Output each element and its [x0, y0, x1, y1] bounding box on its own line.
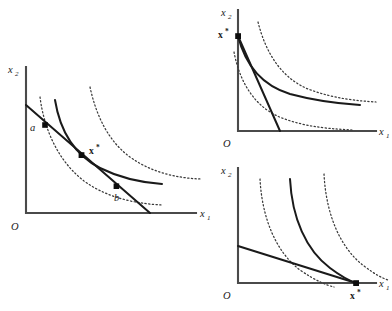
axes-corner-x: [238, 168, 376, 283]
indifference-curve-lower-dotted: [234, 52, 352, 130]
y-axis-label-text: x: [7, 64, 13, 75]
indifference-curve-optimum-solid: [238, 36, 360, 105]
x-axis-label-sub: 1: [386, 284, 390, 292]
point-label-x-star-text: x: [89, 146, 94, 156]
point-label-x-star-asterisk: *: [225, 27, 229, 36]
origin-label-interior: O: [11, 221, 19, 232]
point-marker-x-star: [79, 152, 85, 158]
y-axis-label-corner-y: x 2: [220, 7, 232, 21]
y-axis-label-sub: 2: [228, 171, 232, 179]
point-marker-x-star: [235, 33, 241, 39]
figure-root: a x * b x 2 x 1 O x *: [0, 0, 392, 311]
y-axis-label-corner-x: x 2: [220, 165, 232, 179]
x-axis-label-text: x: [378, 278, 384, 289]
y-axis-label-text: x: [220, 165, 226, 176]
chart-corner-solution-x1: x * x 2 x 1 O: [212, 152, 392, 311]
indifference-curve-optimum-solid: [290, 179, 356, 283]
point-label-x-star: x *: [89, 143, 100, 156]
x-axis-label-text: x: [199, 208, 205, 219]
x-axis-label-text: x: [378, 126, 384, 137]
x-axis-label-sub: 1: [386, 132, 390, 140]
point-label-x-star: x *: [350, 288, 361, 301]
indifference-curve-right-dotted: [324, 174, 388, 280]
chart-corner-solution-x2: x * x 2 x 1 O: [212, 0, 392, 152]
origin-label-corner-x: O: [223, 290, 231, 301]
y-axis-label-sub: 2: [15, 70, 19, 78]
x-axis-label-interior: x 1: [199, 208, 211, 222]
indifference-curve-left-dotted: [260, 179, 334, 287]
point-label-x-star-text: x: [350, 291, 355, 301]
point-label-x-star: x *: [218, 27, 229, 40]
point-label-x-star-asterisk: *: [357, 288, 361, 297]
indifference-curve-tangent-solid: [55, 100, 162, 184]
budget-line-corner-x: [238, 246, 356, 283]
point-label-a: a: [30, 122, 35, 133]
y-axis-label-sub: 2: [228, 13, 232, 21]
point-label-b: b: [114, 192, 119, 203]
point-marker-a: [42, 122, 48, 128]
x-axis-label-sub: 1: [207, 214, 211, 222]
chart-interior-solution: a x * b x 2 x 1 O: [0, 55, 215, 240]
point-label-x-star-asterisk: *: [96, 143, 100, 152]
y-axis-label-interior: x 2: [7, 64, 19, 78]
budget-line-interior: [26, 105, 150, 213]
axes-corner-y: [238, 10, 376, 131]
point-marker-x-star: [353, 280, 359, 286]
indifference-curve-upper-dotted: [258, 22, 376, 102]
y-axis-label-text: x: [220, 7, 226, 18]
indifference-curve-upper-dotted: [90, 87, 200, 179]
x-axis-label-corner-y: x 1: [378, 126, 390, 140]
point-label-x-star-text: x: [218, 30, 223, 40]
origin-label-corner-y: O: [223, 138, 231, 149]
point-marker-b: [114, 183, 120, 189]
